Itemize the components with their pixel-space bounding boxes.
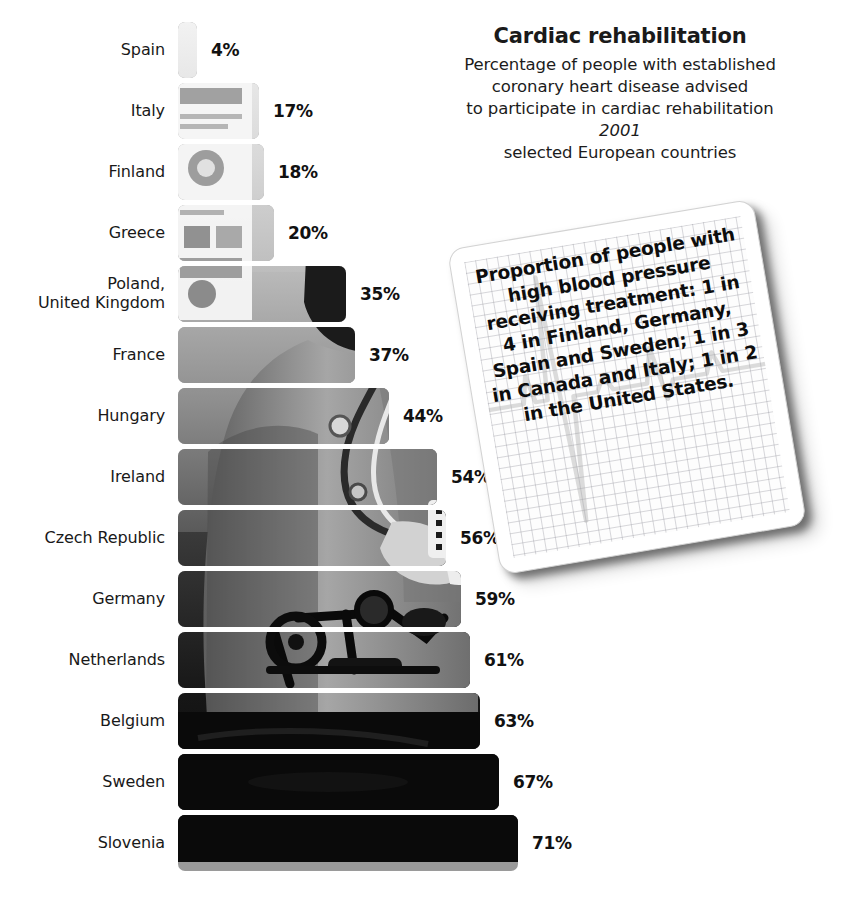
chart-row: Italy <box>0 83 843 139</box>
country-label: France <box>0 327 165 383</box>
bar-value-label: 37% <box>369 327 409 383</box>
bar-ireland <box>178 449 437 505</box>
bar-belgium <box>178 693 480 749</box>
country-label-line: Poland, <box>38 275 165 294</box>
country-label-line: Germany <box>92 590 165 609</box>
country-label: Spain <box>0 22 165 78</box>
note-card-grid-paper: Proportion of people with high blood pre… <box>464 216 790 558</box>
bar-value-label: 17% <box>273 83 313 139</box>
bar-slovenia <box>178 815 518 871</box>
country-label: Hungary <box>0 388 165 444</box>
country-label: Finland <box>0 144 165 200</box>
country-label-line: Spain <box>121 41 165 60</box>
country-label-line: Ireland <box>110 468 165 487</box>
country-label-line: Sweden <box>102 773 165 792</box>
bar-poland-united-kingdom <box>178 266 346 322</box>
chart-row: Finland <box>0 144 843 200</box>
bar-france <box>178 327 355 383</box>
country-label-line: Netherlands <box>69 651 165 670</box>
chart-row: Slovenia <box>0 815 843 871</box>
country-label-line: Greece <box>109 224 165 243</box>
bar-finland <box>178 144 264 200</box>
country-label: Czech Republic <box>0 510 165 566</box>
bar-hungary <box>178 388 389 444</box>
country-label: Ireland <box>0 449 165 505</box>
country-label: Greece <box>0 205 165 261</box>
chart-row: Belgium <box>0 693 843 749</box>
bar-value-label: 4% <box>211 22 239 78</box>
country-label-line: Belgium <box>100 712 165 731</box>
country-label-line: Slovenia <box>98 834 165 853</box>
chart-row: Sweden <box>0 754 843 810</box>
bar-czech-republic <box>178 510 446 566</box>
bar-value-label: 35% <box>360 266 400 322</box>
bar-germany <box>178 571 461 627</box>
bar-value-label: 44% <box>403 388 443 444</box>
bar-value-label: 20% <box>288 205 328 261</box>
chart-row: Netherlands <box>0 632 843 688</box>
country-label: Germany <box>0 571 165 627</box>
country-label-line: France <box>112 346 165 365</box>
infographic-page: Cardiac rehabilitation Percentage of peo… <box>0 0 843 897</box>
country-label-line: United Kingdom <box>38 294 165 313</box>
bar-spain <box>178 22 197 78</box>
bar-italy <box>178 83 259 139</box>
country-label: Poland,United Kingdom <box>0 266 165 322</box>
bar-netherlands <box>178 632 470 688</box>
country-label-line: Finland <box>109 163 165 182</box>
note-card: Proportion of people with high blood pre… <box>447 199 807 576</box>
country-label-line: Hungary <box>97 407 165 426</box>
country-label: Sweden <box>0 754 165 810</box>
chart-row: Spain <box>0 22 843 78</box>
bar-value-label: 59% <box>475 571 515 627</box>
chart-row: Germany <box>0 571 843 627</box>
country-label: Netherlands <box>0 632 165 688</box>
bar-value-label: 18% <box>278 144 318 200</box>
country-label: Italy <box>0 83 165 139</box>
bar-value-label: 67% <box>513 754 553 810</box>
country-label: Slovenia <box>0 815 165 871</box>
bar-sweden <box>178 754 499 810</box>
country-label-line: Italy <box>131 102 165 121</box>
country-label: Belgium <box>0 693 165 749</box>
country-label-line: Czech Republic <box>45 529 165 548</box>
bar-greece <box>178 205 274 261</box>
bar-value-label: 71% <box>532 815 572 871</box>
bar-value-label: 63% <box>494 693 534 749</box>
bar-value-label: 61% <box>484 632 524 688</box>
note-card-text: Proportion of people with high blood pre… <box>465 221 769 433</box>
